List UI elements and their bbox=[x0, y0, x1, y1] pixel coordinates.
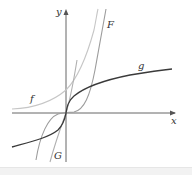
curve-G bbox=[50, 60, 77, 162]
curve-g bbox=[12, 69, 172, 147]
bottom-divider bbox=[0, 167, 192, 175]
function-graph: y x F g f G bbox=[0, 0, 192, 175]
label-g: g bbox=[138, 60, 144, 71]
label-F: F bbox=[106, 19, 115, 30]
label-G: G bbox=[54, 150, 62, 161]
label-f: f bbox=[29, 93, 36, 104]
y-axis-label: y bbox=[55, 6, 62, 17]
curve-f bbox=[12, 9, 98, 109]
x-axis-label: x bbox=[171, 115, 177, 126]
y-axis-arrow-icon bbox=[64, 9, 69, 15]
